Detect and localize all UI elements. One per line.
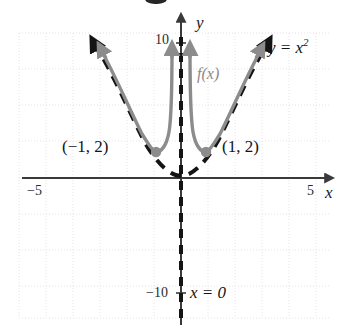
parabola-arrow-left [92, 39, 99, 52]
y-tick-label-neg10: −10 [146, 286, 168, 300]
point-label-right: (1, 2) [222, 138, 259, 155]
parabola-asymptote-figure: y x 10 −10 −5 5 y = x2 f(x) (−1, 2) (1, … [0, 0, 355, 334]
x-axis-label: x [325, 184, 333, 201]
marked-point-right [201, 147, 211, 157]
parabola-equation-text: y = x [268, 38, 303, 57]
x-tick-label-neg5: −5 [27, 184, 42, 198]
marked-point-left [151, 147, 161, 157]
y-tick-label-10: 10 [155, 33, 169, 47]
parabola-equation-label: y = x2 [268, 37, 309, 56]
x-tick-label-5: 5 [307, 184, 314, 198]
fx-left-outer-branch [100, 48, 156, 152]
fx-left-inner-branch [156, 50, 172, 152]
parabola-exponent: 2 [303, 36, 309, 48]
function-curve-label: f(x) [197, 66, 219, 82]
y-axis-label: y [196, 14, 204, 31]
asymptote-equation-label: x = 0 [190, 284, 226, 301]
point-label-left: (−1, 2) [62, 138, 108, 155]
